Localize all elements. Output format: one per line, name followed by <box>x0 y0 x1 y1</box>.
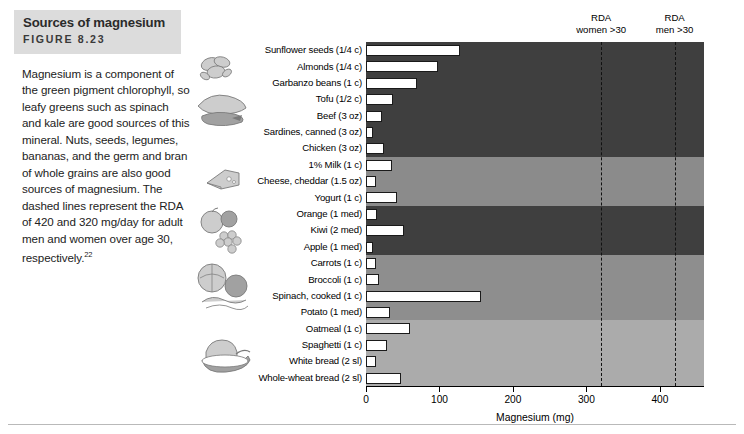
x-axis-tick-label: 300 <box>578 394 595 405</box>
vegetables-illustration <box>192 258 258 318</box>
category-labels: Sunflower seeds (1/4 c)Almonds (1/4 c)Ga… <box>196 0 744 434</box>
caption-body: Magnesium is a component of the green pi… <box>22 67 190 264</box>
x-axis-tick <box>586 387 587 392</box>
caption-reference-marker: 22 <box>84 250 92 259</box>
bread-bowl-illustration <box>196 330 256 378</box>
poultry-fish-illustration <box>192 88 254 130</box>
fruit-illustration <box>196 206 256 256</box>
chart-area: RDA women >30 RDA men >30 Sunflower seed… <box>196 0 744 434</box>
x-axis-tick <box>366 387 367 392</box>
x-axis-tick-label: 200 <box>504 394 521 405</box>
x-axis-title: Magnesium (mg) <box>366 412 704 423</box>
figure-page: Sources of magnesium FIGURE 8.23 Magnesi… <box>0 0 744 434</box>
x-axis-tick <box>439 387 440 392</box>
x-axis-tick-label: 100 <box>431 394 448 405</box>
x-axis-tick <box>513 387 514 392</box>
page-divider <box>8 424 736 425</box>
page-title: Sources of magnesium <box>23 15 173 30</box>
sunflower-seeds-illustration <box>196 52 242 86</box>
x-axis-tick-label: 0 <box>363 394 369 405</box>
figure-title-box: Sources of magnesium FIGURE 8.23 <box>14 10 181 54</box>
cheese-illustration <box>203 163 243 193</box>
category-label: Chicken (3 oz) <box>196 142 366 153</box>
figure-caption: Magnesium is a component of the green pi… <box>22 66 190 266</box>
x-axis-tick-label: 400 <box>651 394 668 405</box>
category-label: Yogurt (1 c) <box>196 192 366 203</box>
x-axis: Magnesium (mg) 0100200300400 <box>366 386 704 387</box>
figure-number: FIGURE 8.23 <box>23 33 173 45</box>
caption-column: Sources of magnesium FIGURE 8.23 Magnesi… <box>0 0 196 434</box>
x-axis-tick <box>660 387 661 392</box>
